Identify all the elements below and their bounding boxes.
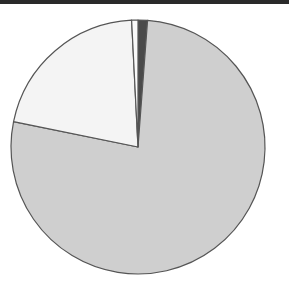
- pie-chart: [0, 0, 289, 293]
